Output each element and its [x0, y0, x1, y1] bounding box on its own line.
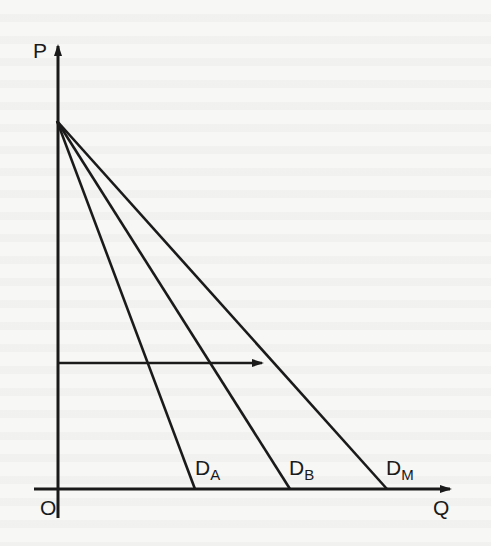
- curve-label-m: DM: [386, 457, 414, 482]
- q-axis-label: Q: [433, 497, 449, 518]
- demand-diagram: [0, 0, 491, 546]
- demand-curve-m: [57, 121, 387, 489]
- curve-label-a: DA: [195, 457, 220, 482]
- curve-label-b: DB: [289, 457, 314, 482]
- origin-label: O: [40, 497, 56, 518]
- p-axis-label: P: [33, 40, 47, 61]
